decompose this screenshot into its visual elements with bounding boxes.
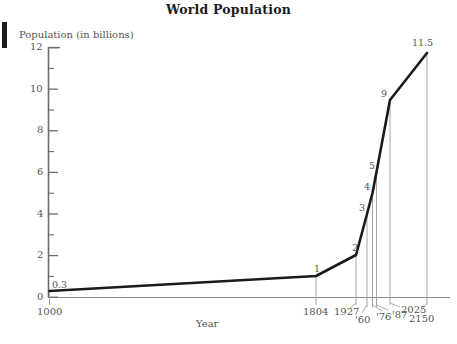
x-tick-label-1960: '60 — [355, 314, 370, 325]
x-tick-label-1000: 1000 — [37, 306, 62, 317]
world-population-figure: World Population Population (in billions… — [0, 0, 457, 344]
drop-lines — [50, 53, 428, 307]
point-label-11-5: 11.5 — [412, 37, 433, 48]
point-label-5: 5 — [369, 160, 375, 171]
point-label-4: 4 — [364, 181, 370, 192]
population-line — [50, 53, 428, 291]
x-tick-label-1976: '76 — [376, 311, 391, 322]
y-tick-label-0: 0 — [37, 291, 43, 302]
x-tick-label-2150: 2150 — [409, 313, 434, 324]
y-tick-label-2: 2 — [37, 249, 43, 260]
point-label-9: 9 — [381, 88, 387, 99]
point-label-1: 1 — [314, 263, 320, 274]
x-tick-label-1804: 1804 — [303, 306, 328, 317]
plot-area — [0, 0, 457, 344]
y-tick-label-12: 12 — [30, 41, 43, 52]
point-label-2: 2 — [352, 242, 358, 253]
y-major-ticks — [48, 48, 58, 298]
y-tick-label-6: 6 — [37, 166, 43, 177]
y-tick-label-4: 4 — [37, 208, 43, 219]
y-tick-label-8: 8 — [37, 124, 43, 135]
point-label-0-3: 0.3 — [52, 279, 67, 290]
point-label-3: 3 — [359, 202, 365, 213]
y-tick-label-10: 10 — [30, 83, 43, 94]
